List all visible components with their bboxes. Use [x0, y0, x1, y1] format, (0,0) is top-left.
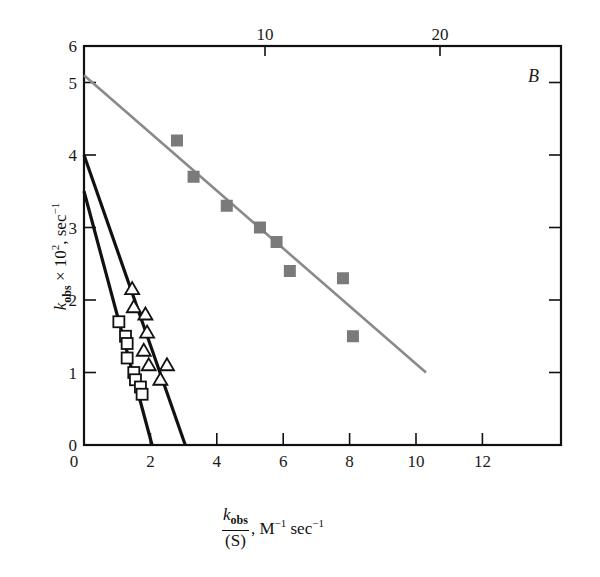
- chart-canvas: 01234560246810121020 B: [0, 0, 600, 577]
- y-tick-label: 5: [69, 74, 78, 93]
- data-point-open-square: [122, 338, 133, 349]
- x-tick-label: 6: [279, 452, 288, 471]
- data-point-filled-square: [271, 236, 283, 248]
- data-point-open-triangle: [153, 373, 167, 385]
- y-axis-label: kobs × 102, sec−1: [49, 157, 74, 357]
- data-point-filled-square: [221, 200, 233, 212]
- data-point-open-triangle: [140, 326, 154, 338]
- top-x-tick-label: 10: [257, 25, 274, 44]
- x-label-fraction: kobs (S): [222, 505, 249, 551]
- data-point-open-triangle: [142, 358, 156, 370]
- panel-label: B: [528, 66, 539, 86]
- data-point-filled-square: [284, 265, 296, 277]
- data-point-filled-square: [188, 171, 200, 183]
- data-points: [113, 135, 359, 400]
- x-tick-label: 12: [474, 452, 491, 471]
- data-point-open-triangle: [160, 358, 174, 370]
- y-tick-label: 6: [69, 37, 78, 56]
- data-point-filled-square: [171, 135, 183, 147]
- data-point-open-triangle: [127, 300, 141, 312]
- data-point-filled-square: [337, 272, 349, 284]
- x-axis-label: kobs (S) , M−1 sec−1: [222, 505, 324, 551]
- data-point-open-square: [122, 353, 133, 364]
- x-tick-label: 10: [408, 452, 425, 471]
- data-point-open-square: [137, 389, 148, 400]
- data-point-filled-square: [254, 222, 266, 234]
- top-x-tick-label: 20: [432, 25, 449, 44]
- data-point-open-square: [113, 316, 124, 327]
- data-point-filled-square: [347, 330, 359, 342]
- x-tick-label: 2: [146, 452, 155, 471]
- x-tick-label: 0: [70, 452, 79, 471]
- y-tick-label: 1: [69, 364, 78, 383]
- data-point-open-triangle: [125, 282, 139, 294]
- data-point-open-triangle: [137, 344, 151, 356]
- x-tick-label: 4: [213, 452, 222, 471]
- x-tick-label: 8: [345, 452, 354, 471]
